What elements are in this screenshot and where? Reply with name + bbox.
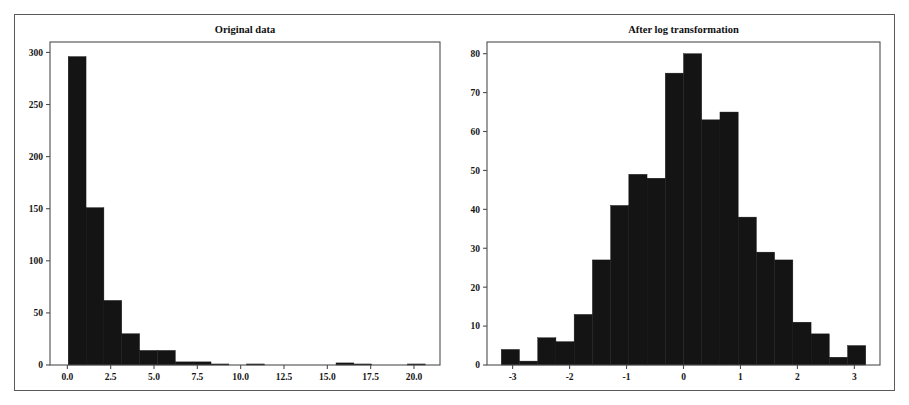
histogram-bars [68, 57, 425, 365]
x-tick-label: 0 [681, 372, 686, 382]
x-tick-label: 5.0 [148, 372, 160, 382]
y-tick-label: 300 [29, 48, 44, 58]
x-tick-label: 17.5 [362, 372, 379, 382]
y-axis: 01020304050607080 [471, 49, 488, 370]
histogram-bar [538, 338, 556, 365]
x-tick-label: -3 [509, 372, 517, 382]
histogram-bar [592, 260, 610, 365]
y-tick-label: 80 [471, 49, 481, 59]
histogram-bar [829, 357, 847, 365]
x-tick-label: 7.5 [191, 372, 203, 382]
x-axis: -3-2-10123 [509, 365, 857, 382]
histogram-bar [629, 174, 647, 365]
y-tick-label: 250 [29, 100, 44, 110]
histogram-bar [665, 73, 683, 365]
histogram-bar [86, 208, 104, 365]
chart-panel-log-transformed: After log transformation-3-2-10123010203… [455, 14, 895, 391]
x-tick-label: -1 [623, 372, 631, 382]
x-tick-label: 3 [852, 372, 857, 382]
histogram-bar [501, 349, 519, 365]
x-tick-label: 20.0 [406, 372, 423, 382]
x-tick-label: 15.0 [319, 372, 336, 382]
x-tick-label: 12.5 [276, 372, 293, 382]
histogram-bar [738, 217, 756, 365]
histogram-bar [793, 322, 811, 365]
histogram-original-data: Original data0.02.55.07.510.012.515.017.… [14, 14, 455, 391]
y-tick-label: 100 [29, 256, 44, 266]
histogram-after-log-transformation: After log transformation-3-2-10123010203… [455, 14, 895, 391]
histogram-bar [104, 300, 122, 365]
histogram-bar [756, 252, 774, 365]
x-tick-label: 0.0 [61, 372, 73, 382]
histogram-bar [122, 334, 140, 365]
histogram-bar [68, 57, 86, 365]
histogram-bar [157, 350, 175, 365]
x-axis: 0.02.55.07.510.012.515.017.520.0 [61, 365, 422, 382]
histogram-bar [848, 346, 866, 365]
histogram-bar [811, 334, 829, 365]
histogram-bar [647, 178, 665, 365]
chart-title: After log transformation [628, 24, 739, 35]
histogram-bar [702, 120, 720, 365]
histogram-bars [501, 54, 866, 365]
y-tick-label: 10 [471, 321, 481, 331]
y-tick-label: 50 [34, 308, 44, 318]
x-tick-label: 1 [738, 372, 743, 382]
y-tick-label: 0 [475, 360, 480, 370]
x-tick-label: -2 [566, 372, 574, 382]
histogram-bar [140, 350, 158, 365]
histogram-bar [519, 361, 537, 365]
x-tick-label: 2.5 [105, 372, 117, 382]
x-tick-label: 10.0 [232, 372, 249, 382]
y-tick-label: 200 [29, 152, 44, 162]
y-tick-label: 0 [38, 360, 43, 370]
y-tick-label: 150 [29, 204, 44, 214]
y-tick-label: 30 [471, 244, 481, 254]
figure-canvas: Original data0.02.55.07.510.012.515.017.… [0, 0, 909, 405]
histogram-bar [720, 112, 738, 365]
y-tick-label: 60 [471, 127, 481, 137]
chart-panel-original-data: Original data0.02.55.07.510.012.515.017.… [14, 14, 455, 391]
y-tick-label: 50 [471, 166, 481, 176]
chart-title: Original data [215, 24, 276, 35]
y-tick-label: 40 [471, 205, 481, 215]
y-tick-label: 70 [471, 88, 481, 98]
histogram-bar [775, 260, 793, 365]
y-tick-label: 20 [471, 283, 481, 293]
histogram-bar [684, 54, 702, 365]
histogram-bar [556, 342, 574, 365]
histogram-bar [574, 314, 592, 365]
x-tick-label: 2 [795, 372, 800, 382]
histogram-bar [611, 205, 629, 365]
y-axis: 050100150200250300 [29, 48, 50, 371]
